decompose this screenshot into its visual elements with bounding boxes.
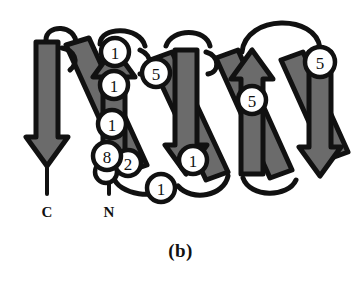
node-marker-1[interactable]: 1 (101, 38, 129, 66)
c-terminus-label: C (34, 204, 60, 221)
node-label: 1 (189, 152, 198, 171)
curl-3 (206, 52, 217, 74)
node-label: 1 (157, 180, 166, 199)
figure-panel: 1 1 5 1 2 8 (0, 0, 361, 284)
node-marker-10[interactable]: 5 (305, 47, 335, 77)
node-label: 5 (248, 92, 257, 111)
node-label: 1 (110, 77, 119, 96)
node-marker-5[interactable]: 8 (93, 142, 121, 170)
loop-top-4 (242, 23, 320, 52)
node-label: 1 (108, 116, 117, 135)
node-label: 5 (152, 65, 161, 84)
figure-caption: (b) (0, 240, 361, 262)
strand-1-down (26, 42, 68, 166)
curl-1 (62, 48, 75, 70)
node-marker-8[interactable]: 1 (179, 146, 207, 174)
n-terminus-label: N (96, 204, 122, 221)
node-marker-2[interactable]: 1 (100, 71, 128, 99)
node-label: 5 (316, 54, 325, 73)
node-marker-9[interactable]: 5 (238, 86, 266, 114)
node-label: 2 (124, 155, 133, 174)
node-marker-3[interactable]: 5 (142, 59, 170, 87)
node-label: 1 (111, 44, 120, 63)
node-label: 8 (103, 148, 112, 167)
node-marker-4[interactable]: 1 (98, 110, 126, 138)
loop-top-3 (166, 33, 210, 47)
node-marker-7[interactable]: 1 (147, 174, 175, 202)
